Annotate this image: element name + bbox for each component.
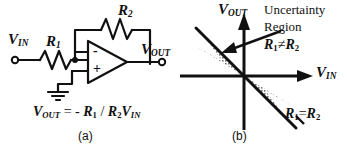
label-r2: R2 [118, 3, 133, 18]
caption-a: (a) [78, 130, 93, 142]
equation-numerator-subscript: 1 [93, 110, 97, 120]
r2-symbol: R [118, 2, 128, 18]
label-vin: VIN [8, 32, 28, 47]
annotation-uncertainty-condition: R1≠R2 [264, 38, 299, 52]
y-axis-subscript: OUT [228, 8, 247, 18]
r1-subscript: 1 [56, 40, 61, 50]
label-axis-vin: VIN [316, 65, 336, 80]
r2-subscript: 2 [128, 9, 133, 19]
figure-container: VIN R1 R2 VOUT - + VOUT = - R1 / R2VIN (… [0, 0, 347, 155]
equation-rhs-subscript: IN [131, 110, 141, 120]
equation-rhs: V [122, 104, 131, 119]
resistor-r1-symbol [40, 51, 71, 69]
x-axis-symbol: V [316, 64, 326, 80]
annotation-uncertainty-line2: Region [264, 20, 302, 33]
equation-lhs-subscript: OUT [42, 110, 60, 120]
uncertainty-r1-symbol: R [264, 37, 273, 52]
uncertainty-r2-symbol: R [285, 37, 294, 52]
opamp-noninverting-sign: + [93, 62, 101, 76]
match-r2-subscript: 2 [316, 112, 320, 122]
panel-b-plot: VOUT VIN Uncertainty Region R1≠R2 R1=R2 … [180, 0, 347, 155]
annotation-match-condition: R1=R2 [285, 107, 320, 121]
gain-equation: VOUT = - R1 / R2VIN [33, 105, 140, 119]
vout-terminal-node [159, 59, 165, 65]
vin-subscript: IN [18, 38, 28, 48]
equation-operator: = - [64, 104, 80, 119]
y-axis-symbol: V [218, 1, 228, 17]
vout-symbol: V [141, 41, 151, 57]
vin-symbol: V [8, 31, 18, 47]
equation-lhs: V [33, 104, 42, 119]
match-r2-symbol: R [307, 106, 316, 121]
vout-subscript: OUT [151, 48, 170, 58]
equation-denominator-subscript: 2 [117, 110, 121, 120]
wire-to-ground [58, 71, 72, 92]
uncertainty-r2-subscript: 2 [295, 43, 299, 53]
caption-b: (b) [232, 130, 247, 142]
resistor-r2-symbol [101, 19, 132, 39]
label-vout: VOUT [141, 42, 170, 57]
x-axis-subscript: IN [326, 71, 336, 81]
label-axis-vout: VOUT [218, 2, 247, 17]
equation-numerator: R [83, 104, 92, 119]
annotation-uncertainty-line1: Uncertainty [264, 3, 325, 16]
leader-arrow-head [221, 42, 237, 53]
panel-a-circuit: VIN R1 R2 VOUT - + VOUT = - R1 / R2VIN (… [0, 0, 180, 155]
equation-denominator: R [108, 104, 117, 119]
equals-operator: = [299, 106, 307, 121]
opamp-inverting-sign: - [93, 44, 98, 58]
match-r1-subscript: 1 [294, 112, 298, 122]
uncertainty-r1-subscript: 1 [273, 43, 277, 53]
x-axis-arrowhead [297, 70, 313, 82]
label-r1: R1 [46, 34, 61, 49]
match-r1-symbol: R [285, 106, 294, 121]
equation-slash: / [100, 104, 104, 119]
r1-symbol: R [46, 33, 56, 49]
